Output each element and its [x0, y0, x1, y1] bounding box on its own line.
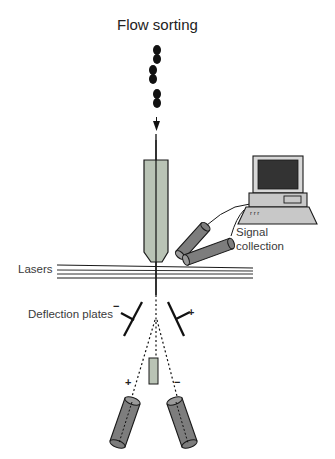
signal-collection-label: Signal collection [236, 225, 306, 253]
computer-icon: r r r [238, 156, 317, 224]
particles [149, 45, 161, 108]
laser-beams [57, 265, 253, 278]
right-stream-polarity: − [174, 376, 180, 388]
deflection-plate-right [168, 302, 190, 336]
left-plate-polarity: − [113, 300, 119, 312]
waste-collector [149, 358, 158, 384]
collection-tube-left [109, 395, 141, 450]
diagram-title: Flow sorting [117, 16, 198, 33]
svg-text:r r r: r r r [250, 210, 259, 216]
right-plate-polarity: + [188, 306, 194, 318]
signal-collection-line2: collection [236, 240, 284, 252]
signal-collection-line1: Signal [236, 226, 268, 238]
lasers-label: Lasers [18, 263, 53, 275]
flow-arrow-icon [153, 117, 160, 131]
deflection-plates-label: Deflection plates [28, 308, 113, 320]
collection-tube-right [166, 395, 198, 450]
deflection-plate-left [121, 302, 142, 336]
left-stream-polarity: + [125, 376, 131, 388]
